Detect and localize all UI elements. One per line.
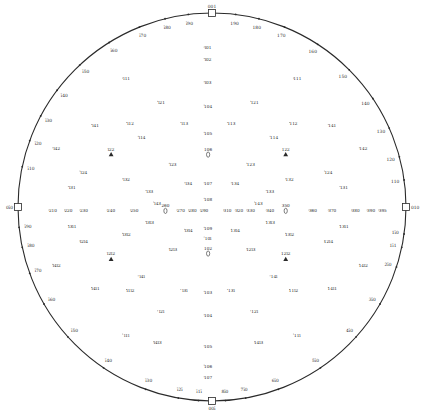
rim-pole-label: 4ī0	[346, 328, 353, 333]
inner-pole-label: 142	[359, 146, 367, 151]
pole-dot-icon	[56, 89, 58, 91]
inner-pole: 395	[378, 208, 387, 213]
rim-pole-label: ī30	[44, 118, 52, 123]
rim-pole: ī70	[29, 268, 42, 274]
inner-pole-label: ī4ī2	[52, 263, 61, 268]
inner-pole-label: ī14	[138, 135, 146, 140]
inner-pole: 280	[188, 208, 197, 213]
inner-pole: ī13	[180, 121, 188, 126]
inner-pole-label: 290	[200, 208, 208, 213]
rim-pole: ī20	[29, 140, 42, 146]
inner-pole-label: 230	[80, 208, 88, 213]
inner-pole: ī33	[145, 189, 153, 194]
inner-pole-label: 13ī4	[231, 228, 241, 233]
inner-pole: 14ī2	[359, 263, 369, 268]
rim-pole-label: 6ī0	[272, 378, 279, 383]
rim-pole: 7ī0	[241, 387, 248, 399]
inner-pole-label: ī03	[204, 80, 212, 85]
pole-dot-icon	[355, 336, 357, 338]
inner-pole-label: 121	[251, 100, 259, 105]
rim-pole-label: 180	[253, 25, 262, 30]
inner-pole: 270	[176, 208, 185, 213]
inner-pole: 310	[223, 208, 232, 213]
inner-pole: 106	[204, 147, 212, 158]
inner-pole: 210	[48, 208, 57, 213]
rim-pole: 170	[277, 26, 286, 38]
inner-pole: ī12	[126, 121, 134, 126]
pole-dot-icon	[284, 26, 286, 28]
primitive-circle	[18, 13, 406, 401]
rim-pole-label: 5ī0	[312, 358, 319, 363]
rim-pole-label: ī60	[109, 48, 117, 53]
inner-pole-label: 12ī4	[324, 239, 334, 244]
inner-pole-label: 106	[204, 147, 212, 152]
inner-pole: 107	[204, 375, 213, 380]
rim-pole: ī70	[138, 26, 146, 38]
pole-dot-icon	[258, 18, 260, 20]
inner-pole-label: 220	[64, 208, 72, 213]
rim-pole-label: ī90	[24, 224, 32, 229]
inner-pole: ī03	[204, 80, 212, 85]
inner-pole-label: 143	[255, 201, 263, 206]
rim-pole-label: ī90	[185, 21, 193, 26]
inner-pole: ī21	[157, 100, 165, 105]
inner-pole-label: 14ī2	[359, 263, 369, 268]
inner-pole-label: ī4ī3	[153, 340, 162, 345]
rim-pole: ī50	[79, 64, 90, 74]
inner-pole-label: ī12	[126, 121, 134, 126]
inner-pole: 134	[231, 181, 240, 186]
pole-dot-icon	[43, 303, 45, 305]
inner-pole-label: ī01	[204, 45, 212, 50]
inner-pole: 122	[282, 147, 290, 157]
rim-pole: 130	[377, 127, 390, 134]
rim-pole-label: 150	[339, 74, 348, 79]
rim-pole-label: ī30	[144, 378, 152, 383]
inner-pole-label: 124	[324, 170, 332, 175]
inner-pole: ī3ī2	[122, 232, 131, 237]
inner-pole: ī3ī4	[184, 228, 193, 233]
inner-pole: 340	[266, 208, 275, 213]
cardinal-pole-label: 00ī	[209, 406, 217, 411]
rim-pole-label: ī50	[81, 69, 89, 74]
rim-pole: 1ī1	[389, 243, 402, 248]
rim-pole: ī30	[40, 115, 53, 123]
inner-pole-label: ī31	[68, 185, 76, 190]
pole-dot-icon	[29, 272, 31, 274]
inner-pole: ī43	[153, 201, 161, 206]
inner-pole: 108	[204, 197, 213, 202]
pole-dot-icon	[21, 166, 23, 168]
inner-pole-label: 11ī	[294, 333, 301, 338]
rim-pole-label: ī2ī	[176, 387, 183, 392]
inner-pole-label: ī02	[204, 57, 212, 62]
inner-pole-label: ī21	[157, 100, 165, 105]
rim-pole-label: ī40	[104, 358, 112, 363]
inner-pole: 220	[64, 208, 73, 213]
inner-pole-label: 111	[293, 76, 301, 81]
square-pole-marker-icon	[209, 10, 216, 17]
rim-pole: ī1ī	[195, 389, 202, 401]
inner-pole: 380	[351, 208, 360, 213]
inner-pole: 112	[289, 121, 298, 126]
rim-pole-label: 120	[387, 157, 396, 162]
inner-pole: 105	[204, 131, 213, 136]
inner-pole: 290	[200, 208, 209, 213]
inner-pole: ī3ī3	[145, 220, 154, 225]
rim-pole: 180	[253, 18, 262, 30]
inner-pole: 141	[328, 123, 337, 128]
inner-pole: ī4ī2	[52, 263, 61, 268]
inner-pole: 105	[204, 344, 213, 349]
inner-pole: 13ī2	[285, 232, 295, 237]
inner-pole: 114	[270, 135, 279, 140]
inner-pole-label: ī3ī	[181, 288, 188, 293]
inner-pole-label: ī34	[184, 181, 192, 186]
rim-pole: 1ī0	[392, 230, 405, 235]
pole-dot-icon	[277, 388, 279, 390]
rim-pole-label: 110	[391, 179, 400, 184]
pole-dot-icon	[67, 336, 69, 338]
rim-pole-label: 7ī0	[241, 387, 248, 392]
inner-pole-label: 270	[177, 208, 185, 213]
inner-pole-label: ī3ī3	[145, 220, 154, 225]
inner-pole: 230	[79, 208, 88, 213]
inner-pole-label: 14ī	[271, 274, 278, 279]
inner-pole-label: 103	[204, 290, 212, 295]
